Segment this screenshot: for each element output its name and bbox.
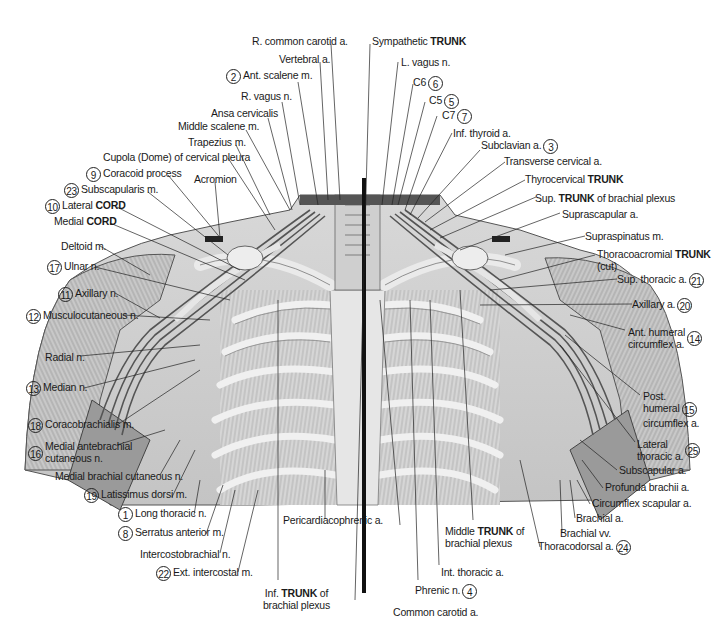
label-circumflex-scapular: Circumflex scapular a. [592,497,691,509]
label-text: Sympathetic [372,35,430,47]
label-bold: CORD [86,215,116,227]
label-median: 13Median n. [24,381,87,396]
label-inf-thyroid: Inf. thyroid a. [453,127,511,139]
label-text: Brachial a. [576,512,623,524]
label-text: Vertebral a. [279,53,330,65]
label-subclavian: Subclavian a.3 [481,139,560,154]
label-text: Transverse cervical a. [504,155,602,167]
label-int-thoracic: Int. thoracic a. [441,566,504,578]
label-text: Profunda brachii a. [605,481,689,493]
label-text: C7 [442,109,455,121]
label-text: Post. [643,390,666,402]
label-text: Coracoid process [103,167,182,179]
callout-number: 2 [226,69,241,84]
label-c5: C55 [429,94,461,109]
label-text: Trapezius m. [188,136,246,148]
callout-number: 8 [118,526,133,541]
label-lateral-thoracic: Lateralthoracic a.25 [637,438,702,462]
label-text: Suprascapular a. [562,208,638,220]
label-text: Cupola (Dome) of cervical pleura [103,151,250,163]
label-med-brachial: Medial brachial cutaneous n. [55,470,183,482]
label-ansa-cervicalis: Ansa cervicalis [211,107,278,119]
label-post-humeral: Post.humeral15circumflex a. [643,390,699,429]
callout-number: 20 [677,298,692,313]
label-ext-intercostal: 22Ext. intercostal m. [154,566,253,581]
label-ant-scalene: 2Ant. scalene m. [224,69,312,84]
label-ant-humeral: Ant. humeralcircumflex a.14 [628,326,704,350]
label-text: Medial [54,215,86,227]
label-cupola: Cupola (Dome) of cervical pleura [103,151,250,163]
label-thyrocervical-trunk: Thyrocervical TRUNK [525,173,623,185]
label-acromion: Acromion [194,173,237,185]
label-brachial-vv: Brachial vv. [560,527,611,539]
label-text: Ant. scalene m. [243,69,312,81]
label-pericardiacophrenic: Pericardiacophrenic a. [283,514,383,526]
label-coracobrachialis: 18Coracobrachialis m. [26,418,134,433]
label-medial-cord: Medial CORD [54,215,117,227]
label-radial: Radial n. [45,351,85,363]
label-deltoid: Deltoid m. [61,240,106,252]
label-text: circumflex a. [643,417,699,429]
label-text: (cut) [597,260,617,272]
label-text: C5 [429,94,442,106]
callout-number: 18 [28,418,43,433]
label-text: circumflex a. [628,338,684,350]
label-text: Latissimus dorsi m. [101,488,187,500]
callout-number: 12 [26,309,41,324]
anatomy-figure: R. common carotid a. Vertebral a. 2Ant. … [0,0,715,638]
callout-number: 23 [64,183,79,198]
callout-number: 3 [543,139,558,154]
callout-number: 5 [444,94,459,109]
label-r-common-carotid: R. common carotid a. [252,35,348,47]
label-text: R. common carotid a. [252,35,348,47]
callout-number: 11 [58,287,73,302]
callout-number: 6 [428,76,443,91]
label-text: Axillary a. [632,298,675,310]
label-trapezius: Trapezius m. [188,136,246,148]
label-text: Ulnar n. [64,260,99,272]
label-bold: TRUNK [588,173,624,185]
label-text: Phrenic n. [415,584,460,596]
callout-number: 14 [687,331,702,346]
label-text: Ant. humeral [628,326,685,338]
label-vertebral: Vertebral a. [279,53,330,65]
label-bold: TRUNK [559,192,595,204]
label-transverse-cervical: Transverse cervical a. [504,155,602,167]
label-latissimus: 19Latissimus dorsi m. [82,488,187,503]
label-ulnar: 17Ulnar n. [45,260,99,275]
label-phrenic: Phrenic n.4 [415,584,479,599]
label-brachial-a: Brachial a. [576,512,623,524]
callout-number: 1 [118,507,133,522]
label-musculocutaneous: 12Musculocutaneous n. [24,309,138,324]
label-med-antebrachial: 16Medial antebrachial cutaneous n. [26,440,145,464]
label-subscapularis: 23Subscapularis m. [62,183,158,198]
label-text: Musculocutaneous n. [43,309,138,321]
callout-number: 7 [457,109,472,124]
label-text: of brachial plexus [594,192,675,204]
label-text: humeral [643,402,680,414]
label-text: Circumflex scapular a. [592,497,691,509]
label-bold: TRUNK [430,35,466,47]
label-lateral-cord: 10Lateral CORD [43,199,126,214]
label-text: Lateral [637,438,668,450]
label-sup-trunk: Sup. TRUNK of brachial plexus [535,192,675,204]
label-text: C6 [413,76,426,88]
callout-number: 10 [45,199,60,214]
label-text: Median n. [43,381,87,393]
label-text: Medial brachial cutaneous n. [55,470,183,482]
label-text: Lateral [62,199,95,211]
label-text: Acromion [194,173,237,185]
callout-number: 24 [616,540,631,555]
label-bold: CORD [95,199,125,211]
label-bold: TRUNK [675,248,711,260]
label-thoracoacromial: Thoracoacromial TRUNK(cut) [597,248,711,272]
label-middle-scalene: Middle scalene m. [178,120,259,132]
label-text: Ext. intercostal m. [173,566,253,578]
callout-number: 21 [689,273,704,288]
label-intercostobrachial: Intercostobrachial n. [140,548,230,560]
label-bold: TRUNK [477,525,513,537]
label-text: Common carotid a. [393,606,478,618]
label-common-carotid: Common carotid a. [393,606,478,618]
callout-number: 9 [86,167,101,182]
callout-number: 13 [26,381,41,396]
